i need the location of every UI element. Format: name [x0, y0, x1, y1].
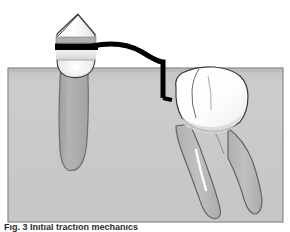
wire-hook-terminus [163, 98, 172, 100]
premolar-root [59, 62, 88, 171]
figure-caption: Fig. 3 Initial traction mechanics [4, 224, 138, 232]
orthodontic-band-assembly [55, 37, 98, 60]
dental-figure: Fig. 3 Initial traction mechanics [0, 0, 290, 232]
lower-light-band [56, 50, 96, 60]
root-inner-shading [65, 78, 66, 148]
upper-gray-band [56, 37, 96, 43]
figure-caption-strip: Fig. 3 Initial traction mechanics [0, 224, 290, 232]
black-bracket-band [55, 44, 98, 51]
dental-illustration [0, 0, 290, 232]
